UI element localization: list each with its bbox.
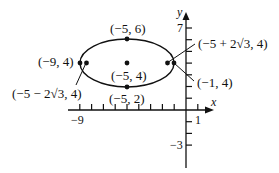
label-bottom-vertex: (−5, 2)	[109, 91, 145, 106]
label-top-vertex: (−5, 6)	[110, 21, 146, 36]
point-left-vertex	[78, 61, 83, 66]
label-center: (−5, 4)	[111, 68, 147, 83]
label-right-vertex: (−1, 4)	[197, 75, 233, 90]
y-axis: y 7 −3	[170, 5, 192, 168]
y-tick-label-max: 7	[177, 21, 183, 35]
point-left-focus	[84, 61, 89, 66]
point-bottom-vertex	[125, 85, 130, 90]
label-left-focus: (−5 − 2√3, 4)	[12, 86, 81, 101]
label-right-focus: (−5 + 2√3, 4)	[198, 36, 267, 51]
point-right-vertex	[172, 61, 177, 66]
leader-right-vertex	[174, 63, 194, 81]
point-top-vertex	[125, 37, 130, 42]
x-axis-label: x	[210, 95, 217, 109]
y-axis-label: y	[176, 5, 183, 19]
y-tick-label-min: −3	[170, 138, 183, 152]
point-right-focus	[165, 61, 170, 66]
label-left-vertex: (−9, 4)	[38, 54, 74, 69]
x-tick-label-max: 1	[195, 113, 201, 127]
point-center	[125, 61, 130, 66]
y-axis-arrow-icon	[183, 12, 190, 20]
ellipse-diagram: x −9 1 y 7 −3	[0, 0, 279, 173]
x-tick-label-min: −9	[71, 113, 84, 127]
